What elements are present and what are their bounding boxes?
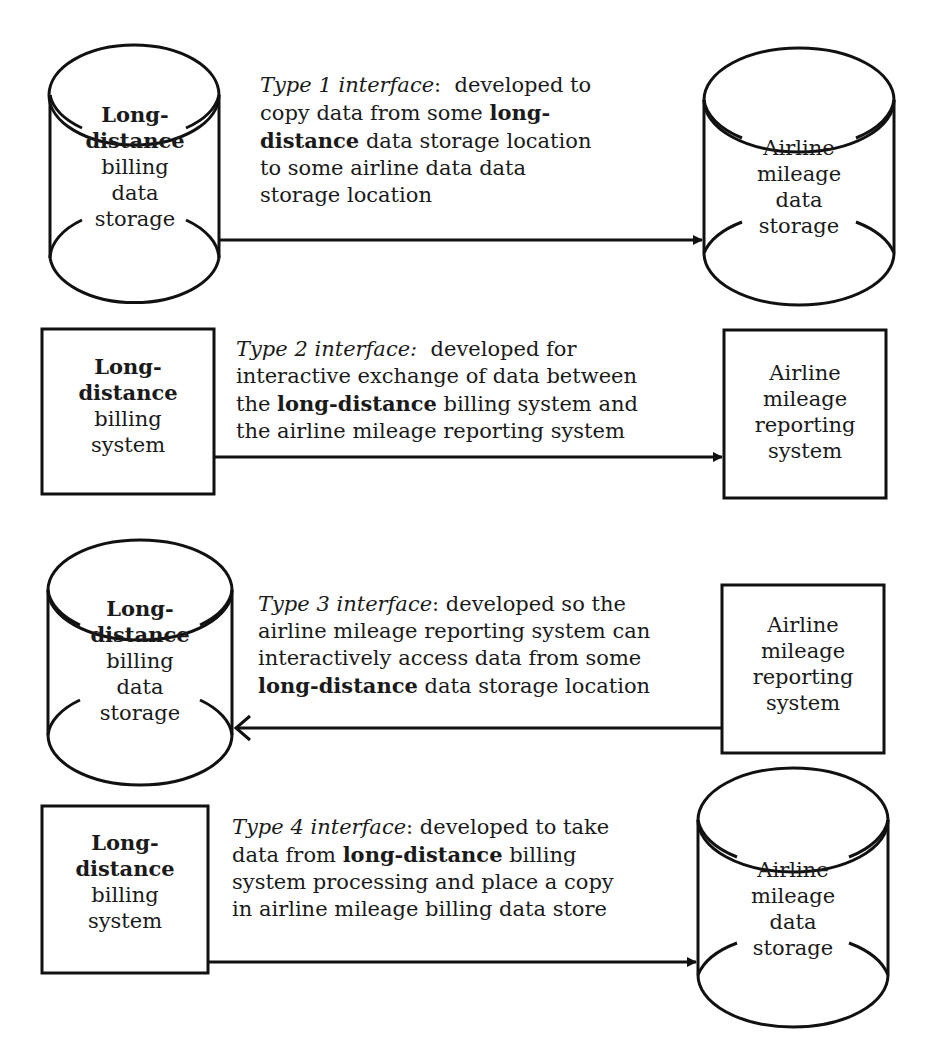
interface-title: Type 2 interface: — [236, 337, 417, 361]
label-line: distance — [60, 128, 210, 154]
label-line: mileage — [728, 386, 882, 412]
desc-text: copy data from some — [260, 101, 489, 125]
node-label-airline-mileage-storage-1: Airline mileage data storage — [724, 135, 874, 239]
label-line: mileage — [726, 638, 880, 664]
label-line: billing — [60, 154, 210, 180]
desc-text: storage location — [260, 182, 680, 209]
label-line: distance — [52, 380, 204, 406]
node-label-long-distance-storage-3: Long- distance billing data storage — [65, 596, 215, 726]
desc-text: billing system and — [437, 392, 638, 416]
label-line: data — [724, 187, 874, 213]
label-line: storage — [60, 206, 210, 232]
label-line: mileage — [718, 883, 868, 909]
label-line: data — [718, 909, 868, 935]
desc-text: data storage location — [359, 129, 591, 153]
desc-text: the — [236, 392, 277, 416]
desc-text: : — [434, 73, 454, 97]
desc-text: : developed so the — [432, 592, 626, 616]
desc-bold: long-distance — [258, 673, 418, 698]
desc-text: in airline mileage billing data store — [232, 896, 692, 923]
desc-text: : developed to take — [406, 815, 609, 839]
label-line: system — [728, 438, 882, 464]
desc-bold: long- — [489, 100, 550, 125]
node-label-airline-mileage-storage-4: Airline mileage data storage — [718, 857, 868, 961]
description-type-3: Type 3 interface: developed so the airli… — [258, 591, 718, 700]
node-label-long-distance-system-4: Long- distance billing system — [50, 830, 200, 934]
desc-text — [417, 337, 430, 361]
label-line: data — [65, 674, 215, 700]
desc-bold: distance — [260, 128, 359, 153]
desc-text: system processing and place a copy — [232, 869, 692, 896]
desc-bold: long-distance — [343, 842, 503, 867]
label-line: reporting — [726, 664, 880, 690]
label-line: Long- — [50, 830, 200, 856]
label-line: mileage — [724, 161, 874, 187]
label-line: system — [726, 690, 880, 716]
label-line: distance — [50, 856, 200, 882]
label-line: billing — [65, 648, 215, 674]
node-label-long-distance-storage-1: Long- distance billing data storage — [60, 102, 210, 232]
label-line: system — [52, 432, 204, 458]
description-type-2: Type 2 interface: developed for interact… — [236, 336, 716, 445]
label-line: storage — [724, 213, 874, 239]
desc-text: data from — [232, 843, 343, 867]
label-line: system — [50, 908, 200, 934]
desc-text: developed to — [455, 73, 592, 97]
node-label-airline-reporting-3: Airline mileage reporting system — [726, 612, 880, 716]
desc-bold: long-distance — [277, 391, 437, 416]
label-line: storage — [65, 700, 215, 726]
desc-text: airline mileage reporting system can — [258, 618, 718, 645]
label-line: storage — [718, 935, 868, 961]
interface-title: Type 4 interface — [232, 815, 406, 839]
label-line: billing — [52, 406, 204, 432]
label-line: reporting — [728, 412, 882, 438]
label-line: Airline — [724, 135, 874, 161]
desc-text: developed for — [431, 337, 577, 361]
node-label-long-distance-system-2: Long- distance billing system — [52, 354, 204, 458]
label-line: Long- — [52, 354, 204, 380]
label-line: data — [60, 180, 210, 206]
label-line: Long- — [60, 102, 210, 128]
interface-title: Type 1 interface — [260, 73, 434, 97]
description-type-4: Type 4 interface: developed to take data… — [232, 814, 692, 923]
label-line: Airline — [726, 612, 880, 638]
desc-text: interactively access data from some — [258, 645, 718, 672]
label-line: Airline — [718, 857, 868, 883]
label-line: distance — [65, 622, 215, 648]
desc-text: the airline mileage reporting system — [236, 418, 716, 445]
description-type-1: Type 1 interface: developed to copy data… — [260, 72, 680, 209]
label-line: Airline — [728, 360, 882, 386]
label-line: billing — [50, 882, 200, 908]
desc-text: data storage location — [418, 674, 650, 698]
desc-text: billing — [503, 843, 577, 867]
node-label-airline-reporting-2: Airline mileage reporting system — [728, 360, 882, 464]
desc-text: to some airline data data — [260, 155, 680, 182]
label-line: Long- — [65, 596, 215, 622]
desc-text: interactive exchange of data between — [236, 363, 716, 390]
interface-title: Type 3 interface — [258, 592, 432, 616]
